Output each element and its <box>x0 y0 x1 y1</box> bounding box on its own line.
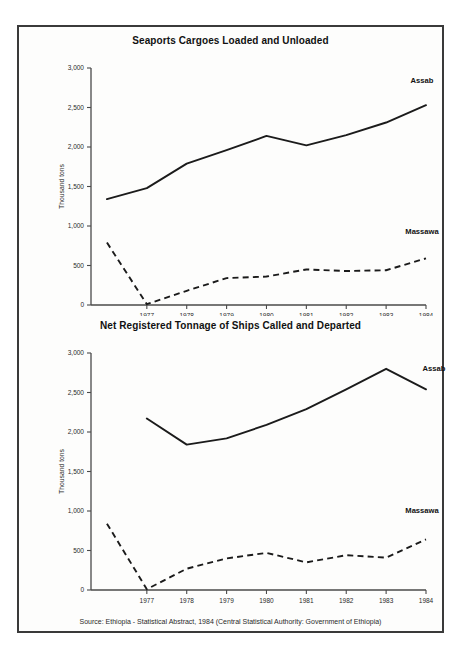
y-tick-label: 500 <box>73 262 84 269</box>
x-tick-label: 1981 <box>299 597 314 603</box>
y-tick-label: 3,000 <box>68 349 85 356</box>
y-tick-label: 0 <box>80 586 84 593</box>
series-line-massawa <box>107 524 426 590</box>
x-tick-label: 1980 <box>259 597 274 603</box>
chart-two-plot: 05001,0001,5002,0002,5003,00019771978197… <box>19 331 446 603</box>
y-tick-label: 1,500 <box>68 468 85 475</box>
series-label-massawa: Massawa <box>405 506 439 515</box>
x-tick-label: 1980 <box>259 312 274 316</box>
x-tick-label: 1983 <box>379 312 394 316</box>
series-label-assab: Assab <box>411 76 434 85</box>
x-tick-label: 1979 <box>219 597 234 603</box>
x-tick-label: 1981 <box>299 312 314 316</box>
chart-one-svg: 05001,0001,5002,0002,5003,00019771978197… <box>19 46 446 316</box>
y-tick-label: 2,500 <box>68 104 85 111</box>
y-tick-label: 2,000 <box>68 143 85 150</box>
chart-one-plot: 05001,0001,5002,0002,5003,00019771978197… <box>19 46 446 316</box>
series-line-assab <box>107 105 426 199</box>
x-tick-label: 1984 <box>419 597 434 603</box>
chart-two-svg: 05001,0001,5002,0002,5003,00019771978197… <box>19 331 446 603</box>
series-label-assab: Assab <box>423 364 446 373</box>
y-tick-label: 0 <box>80 301 84 308</box>
y-tick-label: 2,500 <box>68 389 85 396</box>
y-tick-label: 3,000 <box>68 64 85 71</box>
y-tick-label: 1,000 <box>68 507 85 514</box>
x-tick-label: 1982 <box>339 597 354 603</box>
y-tick-label: 1,500 <box>68 183 85 190</box>
source-note: Source: Ethiopia - Statistical Abstract,… <box>19 618 442 625</box>
series-label-massawa: Massawa <box>405 227 439 236</box>
x-tick-label: 1982 <box>339 312 354 316</box>
x-tick-label: 1977 <box>140 597 155 603</box>
y-axis-title: Thousand tons <box>58 163 65 209</box>
series-line-assab <box>147 369 426 445</box>
y-axis-title: Thousand tons <box>58 448 65 494</box>
series-line-massawa <box>107 243 426 305</box>
y-tick-label: 2,000 <box>68 428 85 435</box>
x-tick-label: 1978 <box>179 597 194 603</box>
chart-one-title: Seaports Cargoes Loaded and Unloaded <box>19 35 442 46</box>
x-tick-label: 1977 <box>140 312 155 316</box>
x-tick-label: 1984 <box>419 312 434 316</box>
x-tick-label: 1978 <box>179 312 194 316</box>
x-tick-label: 1983 <box>379 597 394 603</box>
x-tick-label: 1979 <box>219 312 234 316</box>
figure-frame: Seaports Cargoes Loaded and Unloaded 050… <box>17 25 444 633</box>
y-tick-label: 1,000 <box>68 222 85 229</box>
chart-two-title: Net Registered Tonnage of Ships Called a… <box>19 320 442 331</box>
y-tick-label: 500 <box>73 547 84 554</box>
